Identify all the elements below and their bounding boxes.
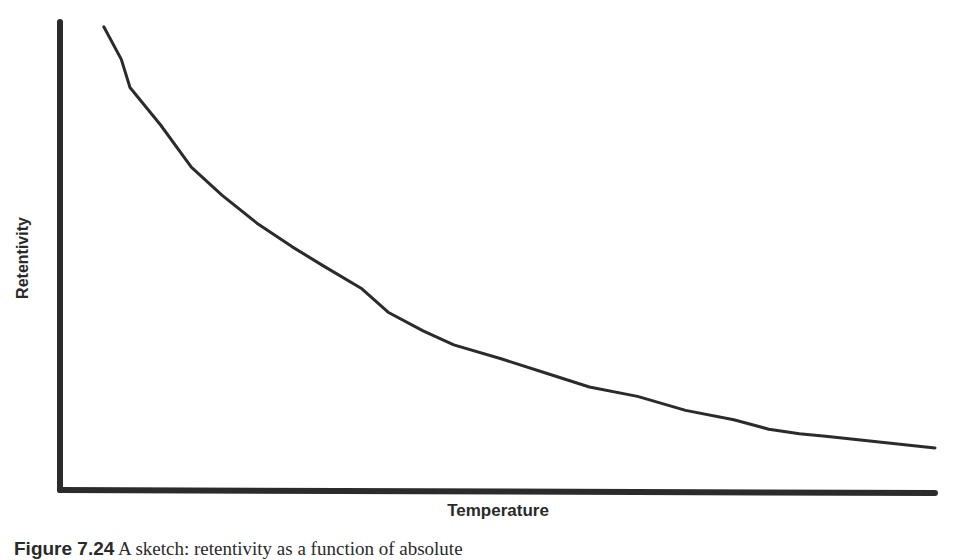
caption-text: A sketch: retentivity as a function of a…: [114, 538, 462, 559]
figure-caption: Figure 7.24 A sketch: retentivity as a f…: [14, 538, 463, 560]
x-axis: [60, 490, 935, 493]
retentivity-curve: [104, 27, 935, 448]
x-axis-label: Temperature: [447, 501, 549, 521]
y-axis-label: Retentivity: [14, 217, 32, 299]
figure-number: Figure 7.24: [14, 538, 114, 559]
